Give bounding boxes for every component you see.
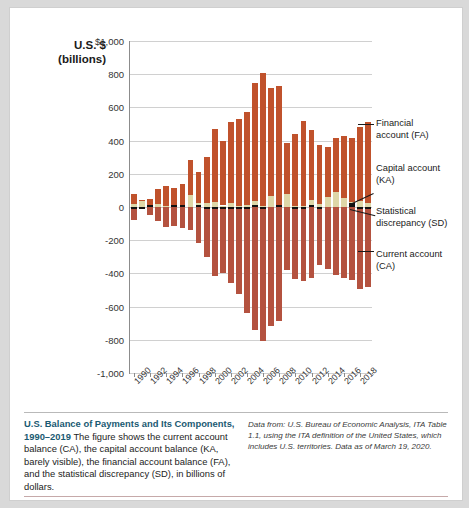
x-tick-mark bbox=[247, 373, 248, 377]
bar-segment-current-account bbox=[196, 207, 202, 243]
bar-segment-current-account bbox=[155, 207, 161, 221]
bar-segment-capital-account bbox=[252, 205, 258, 207]
bar-segment-current-account bbox=[171, 207, 177, 226]
bar-segment-financial-account bbox=[131, 194, 137, 204]
bar-group bbox=[139, 41, 145, 373]
bar-segment-financial-account bbox=[188, 160, 194, 195]
bar-group bbox=[244, 41, 250, 373]
y-tick-label: $1,000 bbox=[66, 36, 124, 47]
bar-segment-capital-account bbox=[171, 205, 177, 207]
legend-item-financial-account: Financial account (FA) bbox=[376, 118, 469, 141]
bar-segment-capital-account bbox=[131, 207, 137, 209]
x-tick-mark bbox=[166, 373, 167, 377]
bar-segment-financial-account bbox=[365, 122, 371, 203]
bar-segment-financial-account bbox=[284, 143, 290, 194]
bar-group bbox=[341, 41, 347, 373]
y-axis-title-line2: (billions) bbox=[58, 53, 106, 65]
bar-segment-financial-account bbox=[292, 134, 298, 207]
bar-segment-current-account bbox=[365, 207, 371, 287]
bar-segment-capital-account bbox=[220, 207, 226, 209]
bar-group bbox=[236, 41, 242, 373]
bar-segment-current-account bbox=[147, 207, 153, 215]
y-tick-label: 200 bbox=[66, 168, 124, 179]
caption-divider bbox=[24, 412, 448, 413]
bar-group bbox=[180, 41, 186, 373]
figure-caption: U.S. Balance of Payments and Its Compone… bbox=[24, 418, 236, 494]
bar-segment-financial-account bbox=[139, 200, 145, 201]
bar-segment-current-account bbox=[292, 207, 298, 279]
bar-segment-current-account bbox=[236, 207, 242, 294]
bar-segment-financial-account bbox=[244, 112, 250, 206]
bar-group bbox=[212, 41, 218, 373]
y-tick-label: 800 bbox=[66, 69, 124, 80]
bar-segment-capital-account bbox=[365, 207, 371, 209]
legend-capital-line2: (KA) bbox=[376, 175, 395, 185]
bar-group bbox=[252, 41, 258, 373]
x-tick-mark bbox=[263, 373, 264, 377]
bar-segment-financial-account bbox=[212, 129, 218, 201]
bar-segment-capital-account bbox=[212, 207, 218, 209]
bar-segment-capital-account bbox=[244, 207, 250, 209]
bar-group bbox=[309, 41, 315, 373]
bar-segment-financial-account bbox=[236, 119, 242, 206]
x-tick-mark bbox=[182, 373, 183, 377]
y-tick-label: -400 bbox=[66, 268, 124, 279]
bar-group bbox=[228, 41, 234, 373]
bar-segment-current-account bbox=[325, 207, 331, 269]
bar-group bbox=[204, 41, 210, 373]
bar-segment-current-account bbox=[301, 207, 307, 281]
bar-segment-financial-account bbox=[260, 73, 266, 206]
bar-group bbox=[171, 41, 177, 373]
bar-segment-financial-account bbox=[333, 138, 339, 192]
bar-segment-capital-account bbox=[180, 205, 186, 207]
bar-segment-current-account bbox=[284, 207, 290, 270]
bar-group bbox=[333, 41, 339, 373]
bar-segment-financial-account bbox=[317, 145, 323, 204]
bar-segment-financial-account bbox=[163, 186, 169, 205]
x-tick-mark bbox=[134, 373, 135, 377]
y-tick-label: 400 bbox=[66, 135, 124, 146]
x-tick-mark bbox=[279, 373, 280, 377]
bar-group bbox=[131, 41, 137, 373]
bar-segment-current-account bbox=[333, 207, 339, 275]
x-tick-mark bbox=[344, 373, 345, 377]
bar-segment-current-account bbox=[244, 207, 250, 313]
legend-current-line2: (CA) bbox=[376, 261, 395, 271]
bar-segment-current-account bbox=[252, 207, 258, 330]
bar-group bbox=[284, 41, 290, 373]
bar-segment-statistical-discrepancy bbox=[325, 197, 331, 207]
leader-line-financial-account bbox=[358, 124, 374, 125]
bar-segment-financial-account bbox=[268, 88, 274, 196]
y-tick-label: -800 bbox=[66, 334, 124, 345]
x-tick-mark bbox=[199, 373, 200, 377]
x-tick-mark bbox=[328, 373, 329, 377]
x-tick-mark bbox=[360, 373, 361, 377]
bar-segment-financial-account bbox=[180, 184, 186, 206]
bar-segment-current-account bbox=[357, 207, 363, 289]
bar-segment-financial-account bbox=[349, 138, 355, 202]
x-tick-mark bbox=[231, 373, 232, 377]
bar-segment-current-account bbox=[260, 207, 266, 341]
legend-capital-line1: Capital account bbox=[376, 163, 440, 173]
bar-group bbox=[163, 41, 169, 373]
bar-segment-capital-account bbox=[147, 205, 153, 207]
bar-segment-capital-account bbox=[276, 205, 282, 207]
bar-segment-capital-account bbox=[260, 207, 266, 209]
bar-segment-statistical-discrepancy bbox=[284, 194, 290, 207]
bar-group bbox=[260, 41, 266, 373]
bar-segment-financial-account bbox=[252, 83, 258, 201]
legend-statistical-line1: Statistical bbox=[376, 206, 416, 216]
bar-group bbox=[147, 41, 153, 373]
chart-plot-area: $1,0008006004002000-200-400-600-800-1,00… bbox=[130, 41, 372, 373]
legend-financial-line1: Financial bbox=[376, 118, 413, 128]
bar-group bbox=[292, 41, 298, 373]
bar-segment-financial-account bbox=[155, 189, 161, 204]
bar-segment-current-account bbox=[317, 207, 323, 265]
bar-segment-statistical-discrepancy bbox=[188, 195, 194, 207]
legend-item-statistical-discrepancy: Statistical discrepancy (SD) bbox=[376, 206, 469, 229]
bar-segment-statistical-discrepancy bbox=[333, 192, 339, 207]
x-tick-mark bbox=[215, 373, 216, 377]
x-tick-mark bbox=[295, 373, 296, 377]
bar-group bbox=[188, 41, 194, 373]
y-tick-label: 600 bbox=[66, 102, 124, 113]
